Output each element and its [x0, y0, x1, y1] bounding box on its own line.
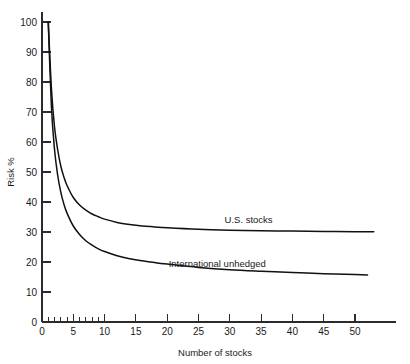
y-axis-title: Risk % [5, 157, 16, 187]
x-tick-label: 5 [71, 326, 77, 337]
y-tick-label: 70 [26, 107, 38, 118]
data-curves [48, 22, 374, 275]
y-tick-label: 20 [26, 257, 38, 268]
x-tick-label: 30 [224, 326, 236, 337]
x-tick-label: 50 [349, 326, 361, 337]
x-tick-label: 45 [318, 326, 330, 337]
curve-u-s-stocks [48, 22, 374, 232]
x-tick-label: 15 [130, 326, 142, 337]
y-tick-label: 80 [26, 77, 38, 88]
y-tick-label: 40 [26, 197, 38, 208]
x-tick-label: 20 [162, 326, 174, 337]
series-annotations: U.S. stocksInternational unhedged [169, 214, 273, 269]
chart-container: 0102030405060708090100 05101520253035404… [0, 0, 410, 364]
risk-diversification-chart: 0102030405060708090100 05101520253035404… [0, 0, 410, 364]
y-tick-label: 50 [26, 167, 38, 178]
x-axis-title: Number of stocks [178, 347, 252, 358]
y-tick-label: 90 [26, 47, 38, 58]
x-tick-label: 0 [39, 326, 45, 337]
x-tick-label: 10 [99, 326, 111, 337]
y-tick-label: 30 [26, 227, 38, 238]
x-axis-tick-labels: 05101520253035404550 [39, 326, 361, 337]
y-tick-label: 60 [26, 137, 38, 148]
y-tick-label: 0 [31, 317, 37, 328]
x-tick-label: 35 [256, 326, 268, 337]
y-axis-tick-labels: 0102030405060708090100 [20, 17, 37, 328]
curve-international-unhedged [48, 22, 367, 275]
x-axis-ticks [73, 314, 355, 322]
x-tick-label: 25 [193, 326, 205, 337]
series-label: International unhedged [169, 258, 266, 269]
y-tick-label: 100 [20, 17, 37, 28]
series-label: U.S. stocks [225, 214, 273, 225]
y-tick-label: 10 [26, 287, 38, 298]
x-tick-label: 40 [287, 326, 299, 337]
